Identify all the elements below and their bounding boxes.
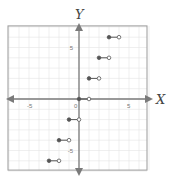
- closed-dot-icon: [47, 159, 51, 163]
- y-axis-title: Y: [75, 7, 85, 22]
- x-tick-label: 0: [74, 103, 78, 109]
- open-dot-icon: [97, 77, 101, 81]
- open-dot-icon: [117, 35, 121, 39]
- y-tick-label: -5: [68, 148, 74, 154]
- x-axis-arrow-left-icon: [6, 95, 14, 103]
- step-segment: [97, 56, 111, 60]
- closed-dot-icon: [87, 77, 91, 81]
- step-segment: [107, 35, 121, 39]
- closed-dot-icon: [97, 56, 101, 60]
- x-axis-title: X: [155, 92, 166, 107]
- closed-dot-icon: [67, 118, 71, 122]
- open-dot-icon: [57, 159, 61, 163]
- y-axis-arrow-down-icon: [75, 168, 83, 176]
- closed-dot-icon: [57, 138, 61, 142]
- open-dot-icon: [107, 56, 111, 60]
- step-segment: [77, 97, 91, 101]
- open-dot-icon: [87, 97, 91, 101]
- x-tick-label: -5: [27, 103, 33, 109]
- closed-dot-icon: [107, 35, 111, 39]
- step-segment: [67, 118, 81, 122]
- step-segment: [87, 77, 101, 81]
- step-segment: [47, 159, 61, 163]
- closed-dot-icon: [77, 97, 81, 101]
- open-dot-icon: [67, 138, 71, 142]
- open-dot-icon: [77, 118, 81, 122]
- step-segment: [57, 138, 71, 142]
- x-tick-label: 5: [127, 103, 131, 109]
- step-function-chart: -5055-5 X Y: [0, 0, 172, 177]
